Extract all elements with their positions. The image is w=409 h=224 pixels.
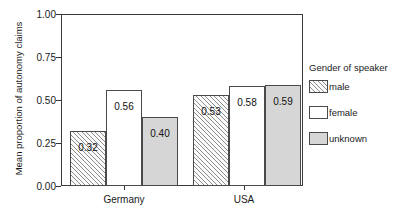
legend-item-unknown[interactable]: unknown [309,131,409,145]
y-tick-label-1-00: 1.00 [37,9,56,20]
x-tick-mark-usa [244,186,245,190]
chart-container: Mean proportion of autonomy claims 1.00 … [0,0,409,224]
bar-germany-male [70,131,106,186]
y-tick-mark-0-00 [56,186,61,187]
value-label-germany-male: 0.32 [70,142,106,153]
value-label-usa-male: 0.53 [193,106,229,117]
legend-swatch-female-icon [309,106,328,119]
value-label-usa-unknown: 0.59 [265,96,301,107]
legend-title: Gender of speaker [309,62,409,73]
y-tick-label-0-75: 0.75 [37,52,56,63]
y-tick-label-0-25: 0.25 [37,138,56,149]
legend-item-male[interactable]: male [309,79,409,93]
y-tick-label-0-00: 0.00 [37,181,56,192]
legend-item-female[interactable]: female [309,105,409,119]
legend-swatch-unknown-icon [309,132,328,145]
legend-label-female: female [329,107,358,118]
y-axis-tick-labels: 1.00 0.75 0.50 0.25 0.00 [14,0,56,224]
x-tick-mark-germany [124,186,125,190]
value-label-germany-female: 0.56 [106,101,142,112]
value-label-usa-female: 0.58 [229,97,265,108]
legend-swatch-male-icon [309,80,328,93]
y-tick-label-0-50: 0.50 [37,95,56,106]
legend: Gender of speaker male female unknown [309,62,409,157]
legend-label-male: male [329,81,350,92]
x-tick-label-usa: USA [234,194,255,205]
x-tick-label-germany: Germany [103,194,144,205]
legend-label-unknown: unknown [329,133,367,144]
value-label-germany-unknown: 0.40 [142,128,178,139]
